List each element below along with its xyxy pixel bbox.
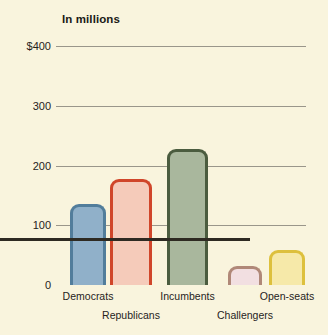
y-tick-label-200: 200 (33, 160, 51, 172)
bar-incumbents (167, 149, 208, 285)
chart-title: In millions (62, 13, 120, 25)
chart-figure: In millions 0100200300$400 DemocratsRepu… (0, 0, 328, 335)
y-tick-label-300: 300 (33, 100, 51, 112)
bar-challengers (228, 266, 262, 285)
plot-area (56, 46, 306, 285)
y-tick-label-100: 100 (33, 219, 51, 231)
gridline-300 (56, 106, 306, 107)
x-axis-baseline (0, 238, 250, 241)
bar-republicans (110, 179, 152, 285)
gridline-400 (56, 46, 306, 47)
x-label-democrats: Democrats (63, 290, 114, 302)
x-label-republicans: Republicans (102, 309, 160, 321)
x-label-challengers: Challengers (217, 309, 273, 321)
y-tick-label-0: 0 (45, 279, 51, 291)
bar-open-seats (269, 250, 305, 285)
y-axis-tick-labels: 0100200300$400 (0, 46, 51, 285)
x-label-open-seats: Open-seats (260, 290, 314, 302)
bar-democrats (70, 204, 106, 285)
y-tick-label-400: $400 (27, 40, 51, 52)
x-label-incumbents: Incumbents (160, 290, 214, 302)
